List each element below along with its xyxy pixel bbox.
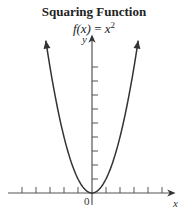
y-axis-label: y xyxy=(81,33,87,45)
origin-label: 0 xyxy=(84,195,90,207)
chart-canvas: x y 0 xyxy=(0,0,188,218)
curve-arrow-right-icon xyxy=(134,41,141,49)
curve-arrow-left-icon xyxy=(44,41,51,49)
y-axis-ticks xyxy=(92,67,98,179)
y-axis xyxy=(92,38,98,205)
x-axis-label: x xyxy=(172,197,178,209)
